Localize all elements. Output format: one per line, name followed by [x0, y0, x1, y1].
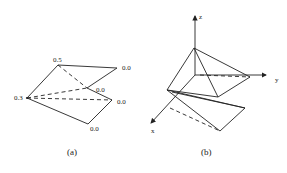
edge-apex-right [194, 48, 250, 77]
vertex-label-left: 0.3 [14, 94, 23, 102]
edge-apex-left [167, 48, 194, 90]
figure-b-3d-plot: z y x (b) [151, 13, 279, 157]
caption-a: (a) [67, 147, 77, 157]
vertex-label-bottom: 0.0 [90, 125, 99, 133]
x-axis-label: x [151, 127, 155, 135]
x-axis [151, 75, 195, 123]
edge-bottom-left [27, 98, 88, 124]
caption-b: (b) [201, 147, 212, 157]
vertex-label-right: 0.0 [117, 98, 126, 106]
dashed-edge-left-middle [27, 88, 87, 98]
edge-left-top [27, 65, 58, 98]
figure-a-graph: 0.5 0.0 0.0 0.3 0.0 0.0 (a) [14, 56, 131, 157]
vertex-label-top: 0.5 [53, 56, 62, 64]
dashed-edge-left-right [27, 98, 112, 100]
dashed-edge-top-middle [58, 65, 87, 88]
edge-right-center [218, 77, 250, 97]
vertex-left-dot [26, 97, 28, 99]
z-axis-label: z [199, 13, 202, 21]
edge-right-bottom [88, 100, 112, 124]
vertex-label-middle: 0.0 [96, 86, 105, 94]
y-axis-label: y [275, 76, 279, 84]
diagram-canvas: 0.5 0.0 0.0 0.3 0.0 0.0 (a) z y x (b) [0, 0, 287, 173]
vertex-label-top-right: 0.0 [122, 64, 131, 72]
edge-topright-middle [87, 68, 117, 88]
edge-apex-center [194, 48, 218, 97]
edge-top-topright [58, 65, 117, 68]
edge-lowerright-bottom [220, 108, 245, 131]
edge-center-lowerright [172, 92, 245, 108]
